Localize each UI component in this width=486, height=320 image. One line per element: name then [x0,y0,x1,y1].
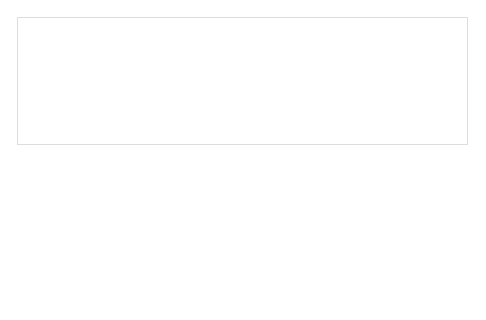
diagram-canvas [0,0,486,320]
